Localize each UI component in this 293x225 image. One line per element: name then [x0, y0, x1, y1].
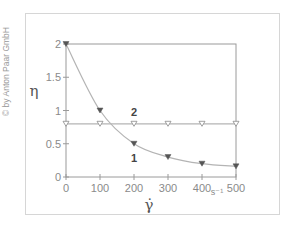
- y-tick-label: 1: [55, 105, 61, 117]
- x-axis-title: γ̇: [145, 196, 154, 214]
- y-tick-label: 2: [55, 38, 61, 50]
- x-tick-label: 100: [91, 182, 109, 194]
- y-axis-title: η: [30, 82, 39, 100]
- y-tick-label: 0: [55, 171, 61, 183]
- x-tick-label: 200: [125, 182, 143, 194]
- series-1-line: [66, 44, 236, 166]
- x-tick-label: 400: [193, 182, 211, 194]
- series-label-2: 2: [131, 106, 137, 118]
- y-tick-label: 0.5: [46, 138, 61, 150]
- y-tick-label: 1.5: [46, 71, 61, 83]
- x-unit-label: s⁻¹: [211, 187, 224, 197]
- chart: 0100200300400500s⁻¹00.511.52ηγ̇12: [0, 0, 293, 225]
- x-tick-label: 0: [63, 182, 69, 194]
- series-label-1: 1: [131, 152, 137, 164]
- x-tick-label: 500: [227, 182, 245, 194]
- series-1-marker: [97, 108, 103, 113]
- plot-area: [66, 44, 236, 177]
- x-tick-label: 300: [159, 182, 177, 194]
